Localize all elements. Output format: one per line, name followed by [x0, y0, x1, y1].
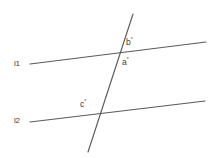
- line-label-l2: l2: [14, 117, 20, 125]
- line-transversal: [88, 14, 133, 152]
- angle-label-b: b°: [126, 36, 133, 46]
- diagram-svg-canvas: [0, 0, 214, 158]
- degree-symbol-b: °: [131, 36, 133, 42]
- angle-label-c: c°: [80, 98, 86, 108]
- degree-symbol-c: °: [84, 98, 86, 104]
- geometry-diagram: l1 l2 a° b° c°: [0, 0, 214, 158]
- line-label-l1: l1: [14, 60, 20, 68]
- line-l2: [30, 101, 205, 122]
- angle-label-a: a°: [122, 56, 129, 66]
- degree-symbol-a: °: [127, 56, 129, 62]
